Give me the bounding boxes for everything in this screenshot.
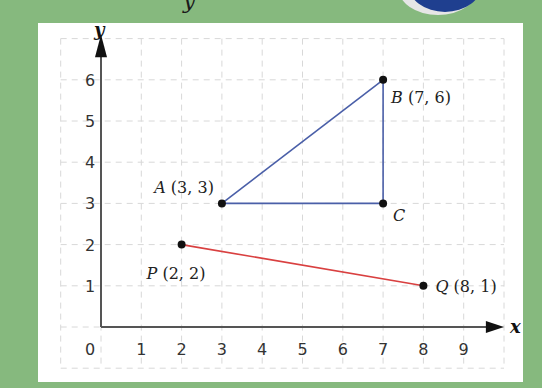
point-C xyxy=(379,199,387,207)
label-Q: Q (8, 1) xyxy=(435,277,496,296)
x-tick-label: 6 xyxy=(338,340,348,359)
tick-labels: 0123456789123456 xyxy=(85,71,469,359)
x-tick-label: 3 xyxy=(217,340,227,359)
point-P xyxy=(178,241,186,249)
x-tick-label: 2 xyxy=(177,340,187,359)
x-tick-label: 4 xyxy=(257,340,267,359)
point-Q xyxy=(419,282,427,290)
point-A xyxy=(218,199,226,207)
x-tick-label: 9 xyxy=(459,340,469,359)
y-tick-label: 3 xyxy=(85,194,95,213)
y-tick-label: 5 xyxy=(85,112,95,131)
x-axis-label: x xyxy=(509,316,521,337)
x-axis-arrow-icon xyxy=(486,321,504,333)
y-tick-label: 2 xyxy=(85,236,95,255)
label-A: A (3, 3) xyxy=(152,178,214,197)
point-labels: A (3, 3)B (7, 6)CP (2, 2)Q (8, 1) xyxy=(146,88,497,296)
x-tick-label: 0 xyxy=(85,340,95,359)
label-P: P (2, 2) xyxy=(146,264,206,283)
label-B: B (7, 6) xyxy=(390,88,451,107)
y-tick-label: 4 xyxy=(85,153,95,172)
x-tick-label: 1 xyxy=(136,340,146,359)
x-tick-label: 7 xyxy=(378,340,388,359)
y-tick-label: 6 xyxy=(85,71,95,90)
x-tick-label: 8 xyxy=(418,340,428,359)
point-B xyxy=(379,76,387,84)
y-tick-label: 1 xyxy=(85,277,95,296)
y-axis-label: y xyxy=(93,19,106,40)
label-C: C xyxy=(393,206,405,225)
x-tick-label: 5 xyxy=(297,340,307,359)
coordinate-graph: xy 0123456789123456 A (3, 3)B (7, 6)CP (… xyxy=(0,0,542,388)
